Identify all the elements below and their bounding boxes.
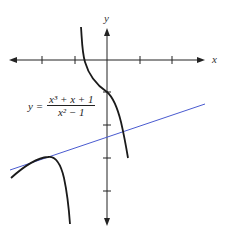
y-axis-down-arrow-icon bbox=[104, 218, 110, 226]
equation-label: y = x³ + x + 1 x² − 1 bbox=[28, 93, 95, 118]
y-axis-up-arrow-icon bbox=[104, 28, 110, 36]
equation-fraction: x³ + x + 1 x² − 1 bbox=[47, 93, 95, 118]
y-axis-label: y bbox=[104, 12, 109, 24]
x-axis-right-arrow-icon bbox=[197, 57, 205, 63]
x-axis-label: x bbox=[212, 53, 217, 65]
equation-numerator: x³ + x + 1 bbox=[47, 93, 95, 106]
graph-canvas bbox=[0, 0, 230, 237]
equation-denominator: x² − 1 bbox=[56, 106, 87, 118]
equation-lhs: y = bbox=[28, 100, 43, 112]
y-axis bbox=[103, 28, 111, 226]
x-axis-left-arrow-icon bbox=[9, 57, 17, 63]
